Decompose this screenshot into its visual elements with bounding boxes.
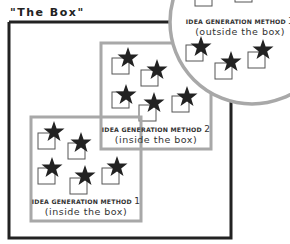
method-1-name: IDEA GENERATION METHOD	[32, 198, 132, 205]
method-3-subtitle: (outside the box)	[185, 26, 290, 37]
method-1-label: IDEA GENERATION METHOD 1 (inside the box…	[31, 196, 141, 217]
method-2-number: 2	[204, 124, 210, 134]
method-3-name: IDEA GENERATION METHOD	[186, 18, 286, 25]
method-2-name: IDEA GENERATION METHOD	[102, 126, 202, 133]
method-1-subtitle: (inside the box)	[31, 206, 141, 217]
method-2-subtitle: (inside the box)	[101, 134, 211, 145]
method-3-label: IDEA GENERATION METHOD 3 (outside the bo…	[185, 16, 290, 37]
diagram-title: "The Box"	[10, 6, 85, 19]
method-1-number: 1	[134, 196, 140, 206]
method-2-label: IDEA GENERATION METHOD 2 (inside the box…	[101, 124, 211, 145]
method-3-number: 3	[288, 16, 290, 26]
